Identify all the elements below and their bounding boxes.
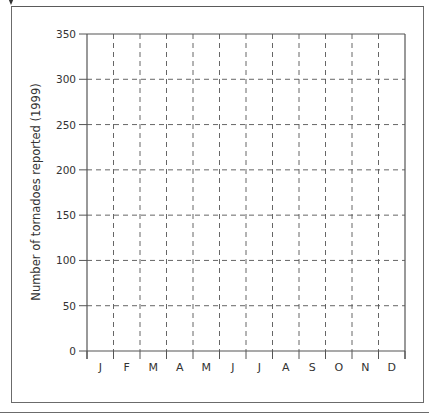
x-tick-label: J bbox=[257, 361, 261, 374]
y-tick-label: 300 bbox=[56, 73, 76, 85]
y-axis-ticks: 050100150200250300350 bbox=[56, 28, 87, 357]
y-tick-label: 350 bbox=[56, 28, 76, 40]
x-tick-label: M bbox=[202, 361, 212, 374]
y-axis-label: Number of tornadoes reported (1999) bbox=[29, 83, 43, 300]
x-tick-label: N bbox=[361, 361, 369, 374]
tornado-chart: 050100150200250300350 JFMAMJJASOND Numbe… bbox=[0, 0, 429, 416]
grid-lines bbox=[87, 34, 405, 351]
y-tick-label: 200 bbox=[56, 164, 76, 176]
x-tick-label: S bbox=[309, 361, 316, 374]
x-tick-label: J bbox=[98, 361, 102, 374]
x-tick-label: A bbox=[282, 361, 290, 374]
x-tick-label: M bbox=[149, 361, 159, 374]
x-tick-label: D bbox=[388, 361, 396, 374]
y-tick-label: 250 bbox=[56, 119, 76, 131]
x-tick-label: J bbox=[230, 361, 234, 374]
y-tick-label: 100 bbox=[56, 254, 76, 266]
y-tick-label: 150 bbox=[56, 209, 76, 221]
y-tick-label: 50 bbox=[63, 300, 76, 312]
x-axis-ticks: JFMAMJJASOND bbox=[87, 351, 405, 374]
y-tick-label: 0 bbox=[69, 345, 76, 357]
x-tick-label: F bbox=[124, 361, 130, 374]
x-tick-label: A bbox=[176, 361, 184, 374]
x-tick-label: O bbox=[334, 361, 343, 374]
